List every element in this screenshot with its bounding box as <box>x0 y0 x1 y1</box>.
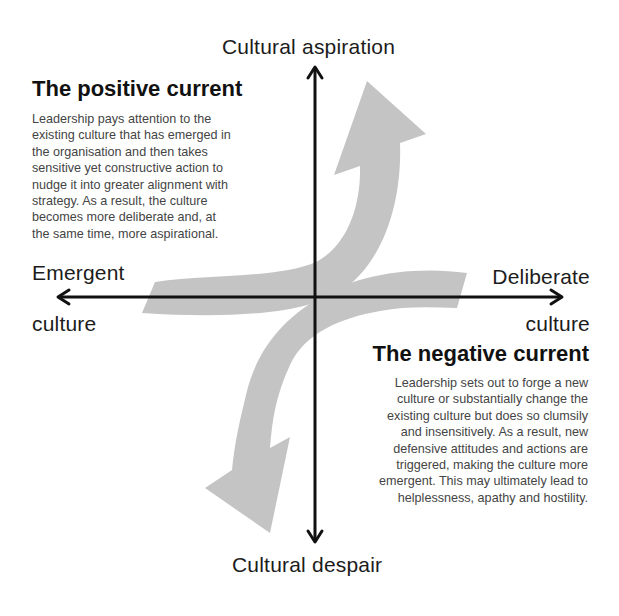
positive-current-title: The positive current <box>32 78 242 100</box>
description-line: triggered, making the culture more <box>379 457 588 473</box>
axis-label-top: Cultural aspiration <box>222 36 395 57</box>
description-line: the organisation and then takes <box>32 144 231 160</box>
description-line: becomes more deliberate and, at <box>32 209 231 225</box>
negative-current-title: The negative current <box>373 343 589 365</box>
negative-current-description: Leadership sets out to forge a new cultu… <box>379 375 588 506</box>
axis-label-right-line1: Deliberate <box>492 266 590 287</box>
description-line: and insensitively. As a result, new <box>379 424 588 440</box>
description-line: Leadership pays attention to the <box>32 111 231 127</box>
description-line: the same time, more aspirational. <box>32 226 231 242</box>
description-line: strategy. As a result, the culture <box>32 193 231 209</box>
axis-label-left-line1: Emergent <box>32 262 125 283</box>
description-line: existing culture that has emerged in <box>32 127 231 143</box>
description-line: defensive attitudes and actions are <box>379 441 588 457</box>
axis-label-left-line2: culture <box>32 313 96 334</box>
axis-label-bottom: Cultural despair <box>232 554 382 575</box>
description-line: sensitive yet constructive action to <box>32 160 231 176</box>
description-line: helplessness, apathy and hostility. <box>379 490 588 506</box>
description-line: nudge it into greater alignment with <box>32 177 231 193</box>
axis-label-right-line2: culture <box>526 313 590 334</box>
description-line: emergent. This may ultimately lead to <box>379 473 588 489</box>
positive-current-description: Leadership pays attention to the existin… <box>32 111 231 242</box>
description-line: Leadership sets out to forge a new <box>379 375 588 391</box>
description-line: existing culture but does so clumsily <box>379 408 588 424</box>
description-line: culture or substantially change the <box>379 391 588 407</box>
